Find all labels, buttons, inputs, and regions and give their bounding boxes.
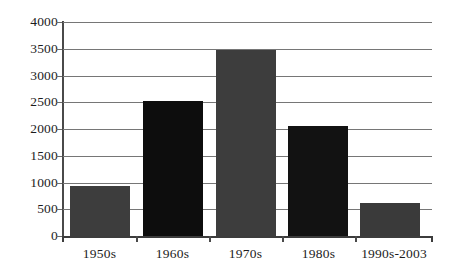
- x-tick-mark-3: [282, 236, 284, 242]
- y-tick-label-2000: 2000: [0, 122, 58, 136]
- gridline-4000: [63, 22, 432, 23]
- y-tick-label-2500: 2500: [0, 95, 58, 109]
- y-tick-label-3500: 3500: [0, 42, 58, 56]
- bar-chart: 4000 3500 3000 2500 2000 1500 1000 500 0: [0, 0, 450, 273]
- plot-area: [63, 22, 432, 236]
- y-tick-label-4000: 4000: [0, 15, 58, 29]
- x-tick-mark-4: [355, 236, 357, 242]
- x-tick-mark-1: [136, 236, 138, 242]
- bar-1990s-2003: [360, 203, 420, 236]
- x-tick-label-1950s: 1950s: [63, 247, 136, 261]
- bar-1950s: [70, 186, 130, 236]
- x-tick-label-1990s-2003: 1990s-2003: [355, 247, 433, 261]
- y-tick-label-1000: 1000: [0, 176, 58, 190]
- y-tick-label-0: 0: [0, 229, 58, 243]
- x-tick-label-1970s: 1970s: [209, 247, 282, 261]
- x-tick-mark-2: [209, 236, 211, 242]
- bar-1970s: [216, 50, 276, 236]
- bar-1960s: [143, 101, 203, 236]
- y-tick-label-1500: 1500: [0, 149, 58, 163]
- x-axis-left-cap: [62, 236, 64, 242]
- y-tick-label-500: 500: [0, 202, 58, 216]
- x-tick-label-1960s: 1960s: [136, 247, 209, 261]
- y-tick-label-3000: 3000: [0, 69, 58, 83]
- bar-1980s: [288, 126, 348, 236]
- x-tick-label-1980s: 1980s: [282, 247, 355, 261]
- x-axis-line: [62, 236, 433, 238]
- x-axis-right-cap: [431, 236, 433, 242]
